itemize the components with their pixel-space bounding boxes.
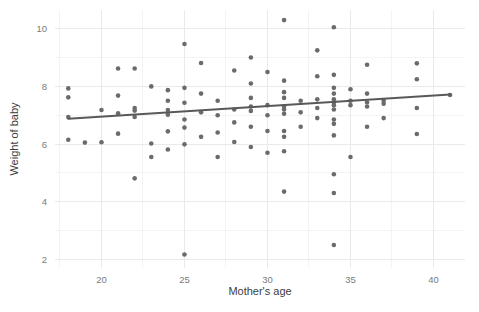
data-point (348, 87, 353, 92)
data-point (381, 101, 386, 106)
data-point (282, 149, 287, 154)
data-point (265, 150, 270, 155)
data-point (116, 66, 121, 71)
data-point (199, 135, 204, 140)
data-point (166, 147, 171, 152)
data-point (166, 88, 171, 93)
data-point (298, 124, 303, 129)
data-point (381, 116, 386, 121)
data-point (332, 103, 337, 108)
y-tick-label: 6 (42, 139, 47, 150)
plot-panel-background (55, 10, 465, 268)
x-axis-title: Mother's age (228, 285, 291, 297)
data-point (282, 135, 287, 140)
data-point (249, 55, 254, 60)
x-tick-label: 25 (179, 274, 190, 285)
data-point (332, 25, 337, 30)
data-point (132, 108, 137, 113)
data-point (415, 132, 420, 137)
data-point (315, 74, 320, 79)
data-point (298, 110, 303, 115)
data-point (365, 62, 370, 67)
data-point (249, 109, 254, 114)
data-point (249, 124, 254, 129)
y-axis-title: Weight of baby (8, 102, 20, 176)
data-point (199, 91, 204, 96)
data-point (282, 189, 287, 194)
data-point (332, 191, 337, 196)
data-point (282, 78, 287, 83)
data-point (116, 131, 121, 136)
data-point (265, 113, 270, 118)
data-point (282, 96, 287, 101)
data-point (332, 243, 337, 248)
data-point (332, 86, 337, 91)
data-point (66, 95, 71, 100)
data-point (365, 124, 370, 129)
data-point (249, 81, 254, 86)
data-point (66, 86, 71, 91)
data-point (282, 107, 287, 112)
data-point (282, 18, 287, 23)
data-point (149, 84, 154, 89)
data-point (332, 73, 337, 78)
y-tick-label: 10 (36, 23, 47, 34)
plot-canvas: 2025303540 246810 Mother's age Weight of… (0, 0, 479, 312)
x-tick-label: 40 (428, 274, 439, 285)
data-point (332, 91, 337, 96)
data-point (232, 68, 237, 73)
data-point (99, 140, 104, 145)
data-point (298, 99, 303, 104)
data-point (182, 101, 187, 106)
data-point (332, 107, 337, 112)
data-point (182, 117, 187, 122)
data-point (315, 106, 320, 111)
data-point (348, 155, 353, 160)
data-point (182, 252, 187, 257)
data-point (315, 116, 320, 121)
data-point (116, 93, 121, 98)
data-point (415, 106, 420, 111)
data-point (215, 113, 220, 118)
data-point (215, 130, 220, 135)
data-point (132, 176, 137, 181)
data-point (182, 42, 187, 47)
data-point (182, 142, 187, 147)
data-point (332, 122, 337, 127)
data-point (166, 129, 171, 134)
data-point (232, 140, 237, 145)
data-point (215, 99, 220, 104)
data-point (149, 141, 154, 146)
data-point (348, 103, 353, 108)
data-point (365, 91, 370, 96)
data-point (215, 155, 220, 160)
data-point (99, 108, 104, 113)
data-point (415, 61, 420, 66)
data-point (265, 70, 270, 75)
data-point (265, 129, 270, 134)
x-axis-tick-labels: 2025303540 (96, 274, 439, 285)
data-point (182, 125, 187, 130)
data-point (315, 97, 320, 102)
data-point (199, 61, 204, 66)
data-point (249, 96, 254, 101)
data-point (149, 155, 154, 160)
data-point (232, 120, 237, 125)
data-point (282, 90, 287, 95)
data-point (182, 86, 187, 91)
data-point (282, 129, 287, 134)
x-tick-label: 30 (262, 274, 273, 285)
y-tick-label: 8 (42, 81, 47, 92)
y-axis-tick-labels: 246810 (36, 23, 47, 265)
data-point (132, 66, 137, 71)
y-tick-label: 2 (42, 254, 47, 265)
data-point (83, 140, 88, 145)
data-point (315, 48, 320, 53)
y-tick-label: 4 (42, 196, 47, 207)
data-point (332, 133, 337, 138)
data-point (66, 137, 71, 142)
data-point (415, 77, 420, 82)
x-tick-label: 35 (345, 274, 356, 285)
x-tick-label: 20 (96, 274, 107, 285)
data-point (249, 145, 254, 150)
